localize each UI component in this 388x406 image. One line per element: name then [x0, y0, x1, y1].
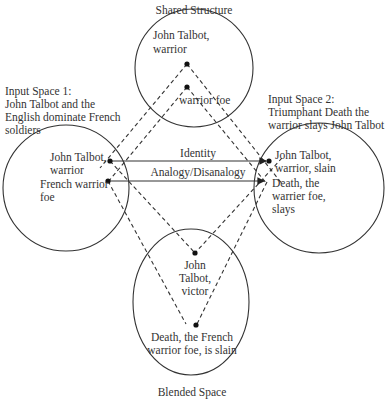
blended-element-death: Death, the French	[130, 331, 254, 344]
input-space-1-title-line: John Talbot and the	[5, 98, 95, 111]
blended-element-death-slain: warrior foe, is slain	[130, 344, 254, 357]
input1-element-john-talbot-role: warrior	[50, 164, 84, 177]
input2-element-death-cont: warrier foe,	[272, 190, 326, 203]
input-space-2-title-line: Input Space 2:	[268, 93, 334, 106]
input-space-2-title-line: Triumphant Death the	[268, 106, 369, 119]
input-space-1-title-line: soldiers	[5, 124, 41, 137]
shared-element-warrior-foe: warrior foe	[179, 94, 230, 107]
input2-element-john-talbot-role: warrior, slain	[275, 162, 336, 175]
blended-element-john: John	[165, 259, 225, 272]
input2-element-death: Death, the	[272, 177, 319, 190]
identity-label: Identity	[148, 147, 248, 160]
blended-element-victor: victor	[165, 285, 225, 298]
blended-space-title: Blended Space	[140, 386, 244, 399]
shared-element-john-talbot: John Talbot,	[153, 29, 209, 42]
blended-element-talbot: Talbot,	[165, 272, 225, 285]
input1-element-john-talbot: John Talbot,	[50, 151, 106, 164]
shared-structure-title: Shared Structure	[141, 4, 247, 17]
input2-element-john-talbot: John Talbot,	[275, 149, 331, 162]
shared-structure-circle	[135, 9, 253, 127]
input1-element-french-foe: French warrior	[40, 178, 109, 191]
input2-element-death-action: slays	[272, 203, 295, 216]
input-space-1-title-line: Input Space 1:	[5, 85, 71, 98]
input-space-2-title-line: warrior slays John Talbot	[268, 119, 384, 132]
analogy-label: Analogy/Disanalogy	[128, 166, 268, 179]
input-space-1-title-line: English dominate French	[5, 111, 121, 124]
shared-element-warrior: warrior	[153, 43, 187, 56]
input1-element-french-foe-cont: foe	[40, 191, 55, 204]
